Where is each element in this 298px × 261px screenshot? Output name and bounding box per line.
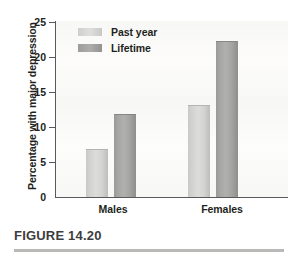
- x-axis-line: [55, 197, 288, 198]
- figure-caption-text: FIGURE 14.20: [14, 228, 102, 243]
- legend-swatch-past-year-icon: [78, 28, 102, 36]
- y-tick-mark-10: [49, 127, 55, 128]
- y-tick-label-20: 20: [24, 52, 46, 62]
- figure-container: Percentage with major depression 25 20 1…: [0, 0, 298, 261]
- x-tick-label-females: Females: [182, 203, 262, 215]
- figure-caption-rule: [14, 249, 284, 252]
- y-tick-mark-20: [49, 57, 55, 58]
- y-tick-mark-25: [49, 22, 55, 23]
- y-axis-title: Percentage with major depression: [26, 11, 38, 201]
- bar-males-lifetime: [114, 114, 136, 197]
- y-tick-label-10: 10: [24, 122, 46, 132]
- figure-caption-block: FIGURE 14.20: [0, 228, 298, 261]
- y-tick-mark-15: [49, 92, 55, 93]
- bar-females-lifetime: [216, 41, 238, 197]
- legend-item-past-year: Past year: [78, 24, 157, 39]
- y-tick-label-5: 5: [24, 157, 46, 167]
- y-tick-label-15: 15: [24, 87, 46, 97]
- legend-swatch-lifetime-icon: [78, 44, 102, 52]
- y-tick-label-0: 0: [24, 192, 46, 202]
- chart-plot-area: Percentage with major depression 25 20 1…: [0, 0, 298, 225]
- legend-item-lifetime: Lifetime: [78, 40, 157, 55]
- chart-legend: Past year Lifetime: [78, 24, 157, 56]
- legend-label-lifetime: Lifetime: [111, 42, 151, 54]
- legend-label-past-year: Past year: [111, 26, 157, 38]
- x-tick-label-males: Males: [78, 203, 148, 215]
- bar-males-past-year: [86, 149, 108, 197]
- y-tick-label-25: 25: [24, 17, 46, 27]
- bar-females-past-year: [188, 105, 210, 197]
- y-tick-mark-5: [49, 162, 55, 163]
